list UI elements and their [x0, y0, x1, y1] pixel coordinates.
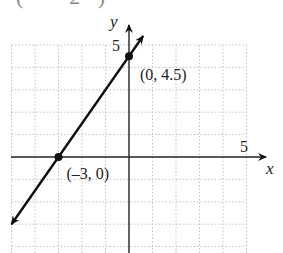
point-label: (–3, 0) [67, 165, 110, 183]
point-label: (0, 4.5) [140, 66, 187, 84]
coordinate-plane: (0, 4.5)(–3, 0) x y 5 5 [0, 0, 283, 253]
point-marker [55, 153, 63, 161]
x-axis-label: x [265, 159, 274, 178]
x-tick-5: 5 [240, 138, 248, 155]
y-tick-5: 5 [112, 37, 120, 54]
point-marker [125, 52, 133, 60]
labeled-points: (0, 4.5)(–3, 0) [55, 52, 187, 183]
graph-figure: ( – 2 ) (0, 4.5)(–3, 0) x y 5 5 [0, 0, 283, 253]
y-axis-label: y [108, 12, 118, 31]
